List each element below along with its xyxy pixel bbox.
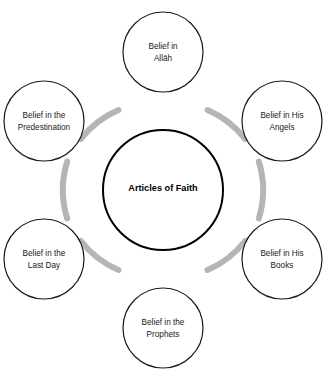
connector-arc-allah-to-angels [208,110,246,139]
node-label-belief-in-his-angels-line-1: Belief in His [260,111,303,120]
connector-arc-lastday-to-predestination [63,162,67,219]
node-label-belief-in-his-books-line-1: Belief in His [260,249,303,258]
node-circle-belief-in-the-predestination[interactable] [4,81,84,161]
node-circle-belief-in-allah[interactable] [123,12,203,92]
node-label-belief-in-allah-line-1: Belief in [148,42,178,51]
node-label-belief-in-his-books-line-2: Books [271,261,294,270]
node-circle-belief-in-the-prophets[interactable] [123,288,203,368]
connector-arc-angels-to-books [259,162,263,219]
node-label-belief-in-the-prophets-line-1: Belief in the [142,318,185,327]
center-label: Articles of Faith [128,183,198,193]
diagram-canvas: Belief in Allāh Belief in His Angels Bel… [0,0,324,375]
connector-arc-predestination-to-allah [81,110,119,139]
node-label-belief-in-allah-line-2: Allāh [154,54,173,63]
articles-of-faith-diagram: Belief in Allāh Belief in His Angels Bel… [0,0,324,375]
node-label-belief-in-the-last-day-line-2: Last Day [28,261,61,270]
node-label-belief-in-the-predestination-line-1: Belief in the [23,111,66,120]
node-label-belief-in-the-last-day-line-1: Belief in the [23,249,66,258]
node-circle-belief-in-his-books[interactable] [242,219,322,299]
node-label-belief-in-the-prophets-line-2: Prophets [147,330,180,339]
connector-arc-books-to-prophets [208,241,246,270]
connector-arc-prophets-to-lastday [81,241,119,270]
node-label-belief-in-his-angels-line-2: Angels [269,123,294,132]
node-circle-belief-in-his-angels[interactable] [242,81,322,161]
node-label-belief-in-the-predestination-line-2: Predestination [18,123,71,132]
node-circle-belief-in-the-last-day[interactable] [4,219,84,299]
